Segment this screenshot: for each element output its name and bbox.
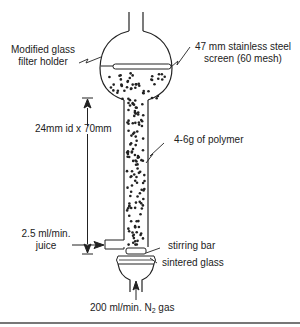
label-filter-holder-line2: filter holder — [6, 56, 80, 68]
polymer-particles — [108, 72, 166, 246]
particle — [155, 97, 158, 100]
particle — [142, 237, 145, 240]
particle — [142, 149, 145, 152]
particle — [128, 215, 131, 218]
leader-filter-holder — [79, 57, 101, 63]
particle — [157, 77, 160, 80]
particle — [135, 139, 138, 142]
particle — [131, 150, 134, 153]
particle — [135, 112, 138, 115]
particle — [131, 74, 134, 77]
particle — [136, 182, 139, 185]
particle — [130, 220, 133, 223]
particle — [116, 92, 119, 95]
particle — [142, 182, 145, 185]
label-screen-line2: screen (60 mesh) — [188, 53, 298, 65]
particle — [140, 159, 143, 162]
particle — [151, 97, 154, 100]
particle — [112, 83, 115, 86]
particle — [123, 90, 126, 93]
particle — [135, 176, 138, 179]
particle — [128, 77, 131, 80]
particle — [150, 78, 153, 81]
particle — [127, 150, 130, 153]
particle — [153, 83, 156, 86]
particle — [140, 202, 143, 205]
particle — [126, 86, 129, 89]
particle — [137, 220, 140, 223]
particle — [134, 243, 137, 246]
particle — [143, 188, 146, 191]
particle — [130, 134, 133, 137]
label-screen: 47 mm stainless steel screen (60 mesh) — [188, 41, 298, 65]
juice-inlet — [105, 240, 124, 249]
label-filter-holder-line1: Modified glass — [6, 44, 80, 56]
label-gas-rate: 200 ml/min. N2 gas — [90, 302, 175, 314]
particle — [140, 188, 143, 191]
particle — [127, 243, 130, 246]
bottom-rule — [0, 322, 300, 324]
stirring-bar — [126, 248, 146, 254]
particle — [134, 179, 137, 182]
particle — [129, 104, 132, 107]
particle — [128, 202, 131, 205]
label-stirring-bar: stirring bar — [168, 240, 215, 252]
label-screen-line1: 47 mm stainless steel — [188, 41, 298, 53]
particle — [138, 226, 141, 229]
particle — [112, 89, 115, 92]
particle — [136, 195, 139, 198]
particle — [161, 78, 164, 81]
particle — [134, 86, 137, 89]
particle — [138, 123, 141, 126]
top-inlet-tube — [129, 12, 143, 31]
label-filter-holder: Modified glass filter holder — [6, 44, 80, 68]
particle — [133, 237, 136, 240]
particle — [134, 207, 137, 210]
dimension-line — [82, 98, 93, 254]
particle — [110, 86, 113, 89]
particle — [126, 186, 129, 189]
particle — [130, 190, 133, 193]
particle — [129, 195, 132, 198]
particle — [121, 97, 124, 100]
particle — [141, 103, 144, 106]
particle — [141, 125, 144, 128]
particle — [132, 241, 135, 244]
particle — [108, 76, 111, 79]
particle — [131, 231, 134, 234]
particle — [142, 114, 145, 117]
particle — [139, 234, 142, 237]
particle — [147, 90, 150, 93]
particle — [137, 82, 140, 85]
particle — [131, 184, 134, 187]
particle — [134, 225, 137, 228]
particle — [132, 148, 135, 151]
particle — [135, 201, 138, 204]
label-juice-line1: 2.5 ml/min. — [18, 228, 74, 240]
particle — [132, 160, 135, 163]
particle — [142, 204, 145, 207]
particle — [136, 130, 139, 133]
particle — [141, 207, 144, 210]
label-sintered-glass: sintered glass — [162, 257, 224, 269]
particle — [139, 171, 142, 174]
particle — [126, 170, 129, 173]
particle — [135, 160, 138, 163]
particle — [139, 192, 142, 195]
particle — [142, 137, 145, 140]
particle — [130, 88, 133, 91]
particle — [137, 113, 140, 116]
particle — [161, 73, 164, 76]
particle — [131, 122, 134, 125]
leader-polymer — [146, 143, 164, 163]
particle — [127, 227, 130, 230]
particle — [134, 135, 137, 138]
particle — [127, 129, 130, 132]
particle — [157, 95, 160, 98]
particle — [135, 106, 138, 109]
particle — [136, 167, 139, 170]
particle — [131, 83, 134, 86]
label-polymer: 4-6g of polymer — [174, 134, 243, 146]
particle — [128, 230, 131, 233]
label-dimension: 24mm id x 70mm — [35, 123, 112, 135]
